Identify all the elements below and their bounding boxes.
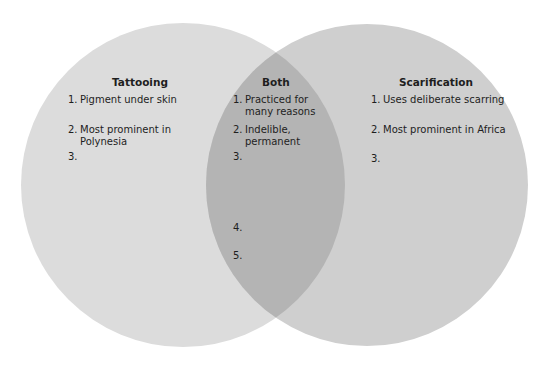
both-item-5: 5. <box>233 250 245 262</box>
tattooing-item-3: 3. <box>68 151 80 163</box>
both-item-4: 4. <box>233 222 245 234</box>
scarification-item-1: 1.Uses deliberate scarring <box>371 94 504 106</box>
scarification-item-3: 3. <box>371 153 383 165</box>
both-item-2: 2.Indelible, permanent <box>233 124 300 148</box>
tattooing-item-1: 1.Pigment under skin <box>68 94 177 106</box>
scarification-title: Scarification <box>399 76 473 88</box>
both-item-1: 1.Practiced for many reasons <box>233 94 315 118</box>
tattooing-title: Tattooing <box>112 76 168 88</box>
tattooing-item-2: 2.Most prominent in Polynesia <box>68 124 171 148</box>
scarification-item-2: 2.Most prominent in Africa <box>371 124 506 136</box>
both-title: Both <box>262 76 290 88</box>
venn-diagram <box>0 0 550 371</box>
both-item-3: 3. <box>233 151 245 163</box>
